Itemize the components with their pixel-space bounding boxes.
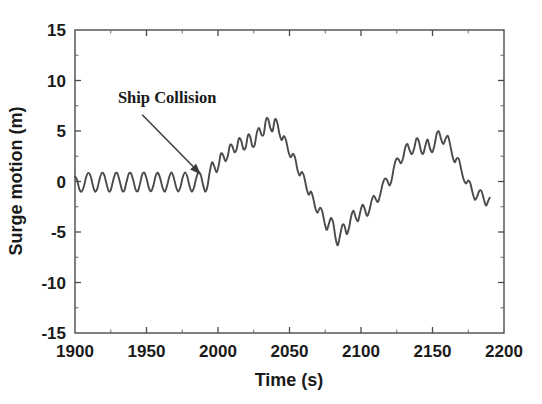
x-axis-title: Time (s) xyxy=(255,370,324,390)
y-tick-label: -15 xyxy=(41,324,66,343)
y-axis-major-ticks xyxy=(75,81,504,283)
y-tick-label: 0 xyxy=(57,173,66,192)
y-tick-label: -10 xyxy=(41,274,66,293)
surge-motion-time-series-chart: 1900195020002050210021502200 -15-10-5051… xyxy=(0,0,542,404)
annotation-label-ship-collision: Ship Collision xyxy=(118,88,217,107)
y-tick-label: 10 xyxy=(47,72,66,91)
data-series-group xyxy=(75,118,490,245)
x-tick-label: 1950 xyxy=(128,342,166,361)
x-tick-label: 2200 xyxy=(485,342,523,361)
x-axis-tick-labels: 1900195020002050210021502200 xyxy=(56,342,523,361)
x-tick-label: 1900 xyxy=(56,342,94,361)
x-tick-label: 2050 xyxy=(271,342,309,361)
x-tick-label: 2150 xyxy=(414,342,452,361)
y-tick-label: 15 xyxy=(47,21,66,40)
annotation-arrow-line xyxy=(142,115,193,167)
y-tick-label: 5 xyxy=(57,122,66,141)
y-tick-label: -5 xyxy=(51,223,66,242)
chart-figure: 1900195020002050210021502200 -15-10-5051… xyxy=(0,0,542,404)
x-tick-label: 2100 xyxy=(342,342,380,361)
x-axis-minor-ticks xyxy=(111,30,469,333)
series-line-surge-motion xyxy=(75,118,490,245)
x-tick-label: 2000 xyxy=(199,342,237,361)
annotation-ship-collision: Ship Collision xyxy=(118,88,217,175)
plot-frame xyxy=(75,30,504,333)
y-axis-tick-labels: -15-10-5051015 xyxy=(41,21,66,343)
y-axis-title: Surge motion (m) xyxy=(6,107,26,256)
